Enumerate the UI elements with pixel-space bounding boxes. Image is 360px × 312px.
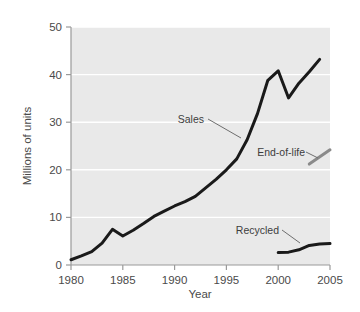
x-tick-label-2005: 2005 — [317, 274, 343, 286]
x-tick-label-1985: 1985 — [110, 274, 136, 286]
annotation-label-sales: Sales — [178, 113, 204, 125]
y-tick-label-40: 40 — [49, 69, 62, 81]
y-tick-label-20: 20 — [49, 164, 62, 176]
chart-container: 01020304050 198019851990199520002005 Mil… — [0, 0, 360, 312]
x-axis-title: Year — [188, 288, 211, 300]
x-tick-label-2000: 2000 — [265, 274, 291, 286]
x-tick-label-1990: 1990 — [162, 274, 188, 286]
y-tick-label-30: 30 — [49, 116, 62, 128]
annotation-label-end-of-life: End-of-life — [257, 146, 305, 158]
x-tick-label-1980: 1980 — [58, 274, 84, 286]
y-tick-label-0: 0 — [56, 259, 62, 271]
line-chart: 01020304050 198019851990199520002005 Mil… — [0, 0, 360, 312]
y-tick-label-50: 50 — [49, 21, 62, 33]
y-tick-label-10: 10 — [49, 211, 62, 223]
y-axis-title: Millions of units — [21, 106, 33, 185]
annotation-label-recycled: Recycled — [236, 224, 279, 236]
x-tick-label-1995: 1995 — [214, 274, 240, 286]
